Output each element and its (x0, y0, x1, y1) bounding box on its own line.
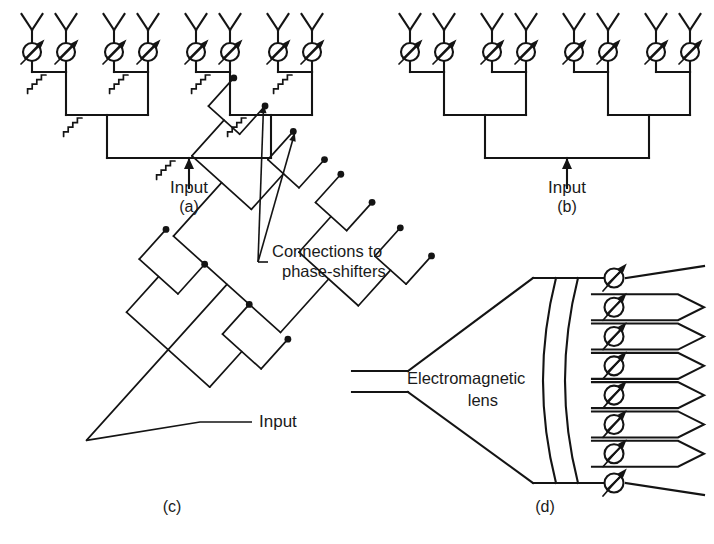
subarm-crossbar-2-1 (315, 202, 346, 230)
antenna-arm-left-2 (56, 14, 67, 30)
mid-terminal-run-1-1 (139, 229, 166, 259)
panel-d-caption: (d) (535, 498, 555, 515)
antenna-arm-left-4 (138, 14, 149, 30)
isolation-resistor-stage1-1 (28, 75, 46, 93)
panel-c-angled-corporate-feed (86, 75, 434, 441)
antenna-arm-right-4 (148, 14, 159, 30)
phase-shifter-terminal-5 (337, 171, 344, 178)
input-leader (86, 422, 252, 440)
antenna-arm-left-5 (186, 14, 197, 30)
array-element-3 (103, 14, 127, 72)
mid-run-2 (210, 352, 242, 388)
isolation-resistor-stage1-4 (274, 75, 292, 93)
lens-phase-shifter-1 (603, 264, 627, 292)
panel-b-input-arrowhead (562, 158, 572, 169)
array-element-4 (515, 14, 539, 72)
antenna-arm-right-5 (196, 14, 207, 30)
phase-shifter-terminal-8 (428, 252, 435, 259)
panel-b-corporate-feed-no-resistors (399, 14, 703, 188)
antenna-arm-right-3 (114, 14, 125, 30)
terminal-run-2-2-2 (406, 256, 431, 284)
panel-c-callout-line-2: phase-shifters (282, 262, 386, 280)
panel-b-input-label: Input (548, 178, 586, 197)
mid-branch-1 (126, 312, 168, 349)
antenna-arm-right-2 (444, 14, 455, 30)
antenna-arm-left-8 (680, 14, 691, 30)
callout-leader-1 (258, 105, 264, 262)
panel-c-callout-line-1: Connections to (272, 242, 382, 260)
phase-shifter-terminal-9 (163, 226, 170, 233)
mid-terminal-run-2-1 (222, 304, 249, 334)
array-element-2 (55, 14, 79, 72)
antenna-arm-left-3 (104, 14, 115, 30)
antenna-arm-left-6 (220, 14, 231, 30)
antenna-arm-left-7 (268, 14, 279, 30)
mid-terminal-run-2-2 (261, 339, 288, 369)
lens-arc-inner (543, 278, 556, 483)
panel-a-input-label: Input (170, 178, 208, 197)
panel-a-input-arrowhead (184, 158, 194, 169)
panel-d-lens-label-line-1: Electromagnetic (407, 369, 525, 387)
phase-shifter-terminal-4 (321, 156, 328, 163)
isolation-resistor-stage1-2 (110, 75, 128, 93)
antenna-arm-left-1 (400, 14, 411, 30)
edge-output-top (626, 266, 704, 278)
antenna-arm-left-4 (516, 14, 527, 30)
isolation-resistor-stage1-3 (192, 75, 210, 93)
array-element-8 (679, 14, 703, 72)
mid-crossbar-1 (139, 259, 178, 294)
edge-output-bottom (626, 483, 704, 495)
isolation-resistor-stage3 (157, 161, 175, 179)
lens-arc-outer (565, 278, 578, 483)
panel-a-corporate-feed-with-resistors (21, 14, 325, 188)
lens-wall-top (408, 278, 533, 371)
arm-run-2 (280, 279, 328, 333)
isolation-resistor-stage2-2 (228, 118, 246, 136)
array-element-4 (137, 14, 161, 72)
antenna-arm-left-5 (564, 14, 575, 30)
lens-phase-shifter-2 (603, 293, 627, 321)
panel-c-input-label: Input (259, 412, 297, 431)
antenna-arm-left-1 (22, 14, 33, 30)
phase-shifter-terminal-7 (397, 224, 404, 231)
mid-branch-2 (168, 350, 210, 387)
array-element-2 (433, 14, 457, 72)
antenna-arm-right-3 (492, 14, 503, 30)
subarm-run-1-1 (192, 120, 224, 156)
lens-phase-shifter-8 (603, 469, 627, 497)
lens-phase-shifter-3 (603, 322, 627, 350)
panel-d-lens-label-line-2: lens (468, 391, 498, 409)
array-element-7 (267, 14, 291, 72)
array-element-6 (219, 14, 243, 72)
subarm-crossbar-1-1 (208, 106, 239, 134)
isolation-resistor-stage2-1 (64, 118, 82, 136)
antenna-feed-figure: Input (a) Input (b) Connections to phase… (0, 0, 714, 544)
panel-b-caption: (b) (557, 198, 577, 215)
array-element-1 (399, 14, 423, 72)
antenna-arm-left-6 (598, 14, 609, 30)
antenna-arm-left-3 (482, 14, 493, 30)
phase-shifter-terminal-10 (201, 261, 208, 268)
lens-phase-shifter-6 (603, 410, 627, 438)
antenna-arm-right-8 (312, 14, 323, 30)
antenna-arm-right-6 (230, 14, 241, 30)
phase-shifter-terminal-12 (285, 336, 292, 343)
phase-shifter-terminal-1 (230, 75, 237, 82)
mid-crossbar-2 (222, 334, 261, 369)
antenna-arm-left-7 (646, 14, 657, 30)
lens-phase-shifter-5 (603, 381, 627, 409)
antenna-arm-right-8 (690, 14, 701, 30)
antenna-arm-right-5 (574, 14, 585, 30)
antenna-arm-right-1 (410, 14, 421, 30)
antenna-arm-left-8 (302, 14, 313, 30)
array-element-6 (597, 14, 621, 72)
mid-run-1 (126, 277, 158, 313)
antenna-arm-right-6 (608, 14, 619, 30)
antenna-arm-right-7 (278, 14, 289, 30)
antenna-arm-right-2 (66, 14, 77, 30)
main-crossbar (173, 236, 280, 332)
panel-d-space-feed-lens (352, 264, 704, 497)
phase-shifter-terminal-3 (290, 128, 297, 135)
panel-c-caption: (c) (163, 498, 182, 515)
antenna-arm-right-7 (656, 14, 667, 30)
